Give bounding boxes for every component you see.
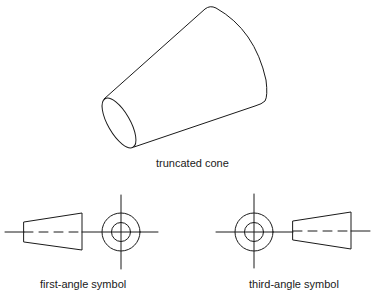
cone-small-end-ellipse: [95, 93, 142, 152]
projection-diagram: [0, 0, 379, 300]
first-angle-label: first-angle symbol: [40, 278, 126, 291]
third-angle-symbol: [216, 194, 370, 268]
cone-top-outline: [104, 7, 267, 147]
third-angle-label: third-angle symbol: [249, 278, 339, 291]
truncated-cone-label: truncated cone: [156, 157, 229, 170]
first-angle-symbol: [5, 195, 158, 269]
truncated-cone-drawing: [95, 7, 266, 153]
